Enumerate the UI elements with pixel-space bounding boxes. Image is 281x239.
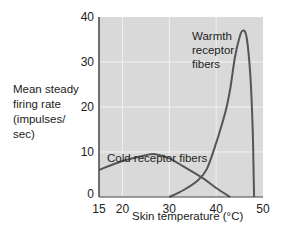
y-tick-label: 0 <box>87 187 94 201</box>
y-tick-label: 30 <box>81 55 95 69</box>
y-tick-label: 20 <box>81 100 95 114</box>
y-axis-ticks: 010203040 <box>81 10 95 201</box>
y-tick-label: 10 <box>81 145 95 159</box>
cold-fibers-label: Cold receptor fibers <box>107 152 208 164</box>
warmth-fibers-label-line3: fibers <box>192 58 220 70</box>
firing-rate-chart: 010203040 1520304050 Cold receptor fiber… <box>0 0 281 239</box>
x-tick-label: 20 <box>116 202 130 216</box>
x-tick-label: 15 <box>92 202 106 216</box>
x-tick-label: 50 <box>256 202 270 216</box>
warmth-fibers-label-line2: receptor <box>192 44 234 56</box>
x-axis-label: Skin temperature (°C) <box>132 210 243 222</box>
y-tick-label: 40 <box>81 10 95 24</box>
warmth-fibers-label-line1: Warmth <box>192 30 232 42</box>
